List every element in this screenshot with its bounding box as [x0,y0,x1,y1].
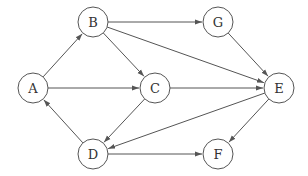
edge-b-to-e [107,27,264,83]
node-label: C [150,81,160,96]
node-f: F [203,139,233,169]
edge-d-to-a [44,100,83,143]
node-label: G [213,15,223,30]
directed-graph: ABGCEDF [0,0,308,176]
edge-c-to-d [104,99,145,142]
edge-g-to-e [228,33,268,76]
node-g: G [203,7,233,37]
edge-e-to-f [229,99,269,142]
node-label: A [27,81,38,96]
node-d: D [78,139,108,169]
node-e: E [264,73,294,103]
edge-b-to-c [103,33,144,76]
node-label: B [88,15,98,30]
node-a: A [18,73,48,103]
node-label: D [88,147,98,162]
node-label: E [274,81,284,96]
node-c: C [140,73,170,103]
edge-a-to-b [43,34,82,77]
node-b: B [78,7,108,37]
node-label: F [213,147,222,162]
edge-e-to-d [108,93,265,149]
